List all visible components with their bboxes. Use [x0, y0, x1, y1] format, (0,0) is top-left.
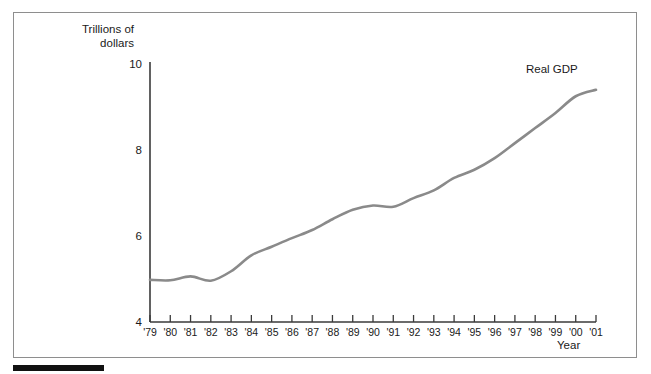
- x-tick-label: '84: [245, 326, 259, 338]
- y-tick-label: 6: [136, 230, 142, 242]
- x-tick-label: '99: [549, 326, 563, 338]
- x-tick-label: '93: [427, 326, 441, 338]
- series-line-real-gdp: [150, 90, 596, 281]
- x-tick-label: '91: [386, 326, 400, 338]
- x-tick-label: '95: [468, 326, 482, 338]
- x-tick-label: '00: [569, 326, 583, 338]
- y-tick-labels: 46810: [129, 58, 142, 328]
- y-axis: 46810: [129, 58, 150, 328]
- figure-root: Trillions of dollars Real GDP Year 46810…: [0, 0, 651, 374]
- x-tick-label: '87: [305, 326, 319, 338]
- x-tick-label: '79: [143, 326, 157, 338]
- x-tick-label: '88: [326, 326, 340, 338]
- x-tick-label: '01: [589, 326, 603, 338]
- x-tick-label: '81: [184, 326, 198, 338]
- x-tick-marks: [150, 315, 596, 322]
- y-tick-label: 8: [136, 144, 142, 156]
- y-tick-label: 4: [136, 316, 143, 328]
- x-tick-label: '92: [407, 326, 421, 338]
- x-tick-label: '97: [508, 326, 522, 338]
- footer-rule: [13, 365, 104, 371]
- x-tick-label: '83: [224, 326, 238, 338]
- x-tick-label: '90: [366, 326, 380, 338]
- x-tick-label: '96: [488, 326, 502, 338]
- x-tick-label: '89: [346, 326, 360, 338]
- x-tick-label: '82: [204, 326, 218, 338]
- x-tick-label: '98: [528, 326, 542, 338]
- line-chart-plot: 46810 '79'80'81'82'83'84'85'86'87'88'89'…: [0, 0, 651, 374]
- x-tick-label: '85: [265, 326, 279, 338]
- x-axis: '79'80'81'82'83'84'85'86'87'88'89'90'91'…: [143, 315, 603, 338]
- x-tick-labels: '79'80'81'82'83'84'85'86'87'88'89'90'91'…: [143, 326, 603, 338]
- x-tick-label: '86: [285, 326, 299, 338]
- x-tick-label: '80: [163, 326, 177, 338]
- y-tick-label: 10: [129, 58, 142, 70]
- x-tick-label: '94: [447, 326, 461, 338]
